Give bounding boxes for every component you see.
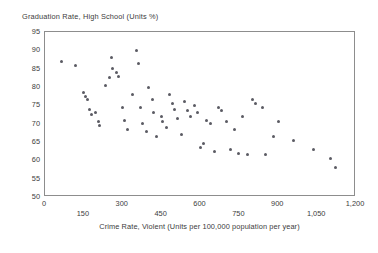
scatter-point [233, 128, 236, 131]
scatter-point [74, 64, 77, 67]
scatter-point [86, 98, 89, 101]
scatter-point [139, 106, 142, 109]
scatter-point [246, 153, 249, 156]
x-axis-tick-labels: 01503004506007509001,0501,200 [0, 198, 378, 222]
scatter-point [123, 119, 126, 122]
scatter-point [90, 113, 93, 116]
scatter-point [94, 111, 97, 114]
scatter-point [88, 108, 91, 111]
scatter-point [183, 100, 186, 103]
scatter-point [254, 102, 257, 105]
y-tick-label: 65 [0, 137, 40, 146]
scatter-point [225, 120, 228, 123]
scatter-point [277, 120, 280, 123]
scatter-point [82, 91, 85, 94]
scatter-point [176, 117, 179, 120]
scatter-point [111, 67, 114, 70]
scatter-point [110, 56, 113, 59]
scatter-point [152, 111, 155, 114]
scatter-chart-figure: Graduation Rate, High School (Units %) 5… [0, 0, 378, 253]
scatter-point [131, 93, 134, 96]
scatter-point [205, 119, 208, 122]
scatter-point [193, 104, 196, 107]
scatter-point [98, 124, 101, 127]
scatter-point [121, 106, 124, 109]
scatter-point [141, 122, 144, 125]
scatter-point [160, 115, 163, 118]
scatter-point [209, 122, 212, 125]
scatter-point [329, 157, 332, 160]
scatter-point [196, 111, 199, 114]
y-tick-label: 75 [0, 100, 40, 109]
x-tick-label: 150 [77, 209, 89, 218]
scatter-point [126, 128, 129, 131]
plot-area [44, 31, 355, 196]
scatter-point [117, 75, 120, 78]
x-tick-label: 600 [193, 199, 205, 208]
scatter-point [104, 84, 107, 87]
y-axis-tick-labels: 50556065707580859095 [0, 31, 40, 196]
y-tick-label: 55 [0, 173, 40, 182]
scatter-point [189, 115, 192, 118]
y-tick-label: 85 [0, 63, 40, 72]
scatter-point [334, 166, 337, 169]
scatter-point [97, 120, 100, 123]
x-tick-label: 1,200 [346, 199, 365, 208]
scatter-point [251, 98, 254, 101]
scatter-point [135, 49, 138, 52]
scatter-point [151, 98, 154, 101]
scatter-point [145, 130, 148, 133]
y-tick-label: 60 [0, 155, 40, 164]
scatter-point [60, 60, 63, 63]
x-tick-label: 900 [271, 199, 283, 208]
scatter-point [165, 126, 168, 129]
scatter-point [108, 76, 111, 79]
scatter-point [199, 146, 202, 149]
scatter-point [84, 95, 87, 98]
x-tick-label: 450 [154, 209, 166, 218]
scatter-point [261, 106, 264, 109]
x-tick-label: 1,050 [307, 209, 326, 218]
scatter-point [161, 120, 164, 123]
scatter-points-layer [45, 32, 354, 195]
y-tick-label: 70 [0, 118, 40, 127]
scatter-point [173, 108, 176, 111]
scatter-point [220, 109, 223, 112]
y-tick-label: 95 [0, 27, 40, 36]
scatter-point [229, 148, 232, 151]
x-tick-label: 750 [232, 209, 244, 218]
x-tick-label: 0 [42, 199, 46, 208]
scatter-point [292, 139, 295, 142]
scatter-point [241, 115, 244, 118]
scatter-point [137, 62, 140, 65]
scatter-point [168, 93, 171, 96]
x-tick-label: 300 [116, 199, 128, 208]
y-tick-label: 80 [0, 82, 40, 91]
scatter-point [272, 135, 275, 138]
x-axis-title: Crime Rate, Violent (Units per 100,000 p… [44, 222, 355, 231]
scatter-point [115, 71, 118, 74]
scatter-point [217, 106, 220, 109]
scatter-point [171, 102, 174, 105]
scatter-point [312, 148, 315, 151]
scatter-point [237, 152, 240, 155]
scatter-point [180, 133, 183, 136]
y-tick-label: 90 [0, 45, 40, 54]
scatter-point [155, 135, 158, 138]
scatter-point [186, 109, 189, 112]
scatter-point [213, 150, 216, 153]
scatter-point [147, 86, 150, 89]
scatter-point [202, 142, 205, 145]
scatter-point [264, 153, 267, 156]
chart-title: Graduation Rate, High School (Units %) [22, 12, 158, 21]
